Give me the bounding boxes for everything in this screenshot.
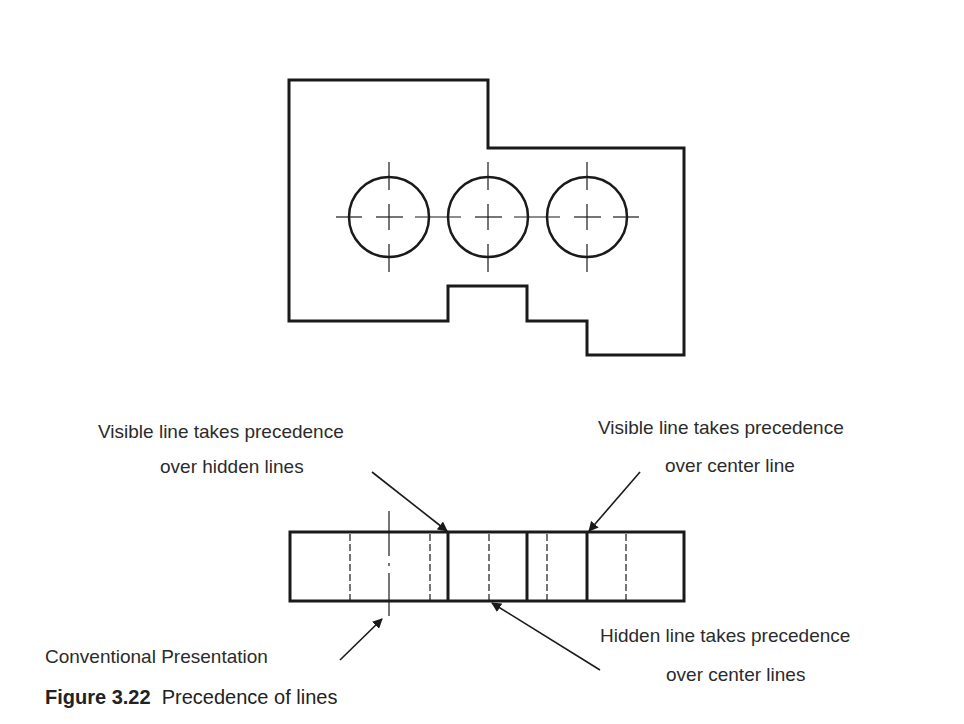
front-view (290, 511, 684, 616)
label-hidden-over-center-line1: Hidden line takes precedence (600, 626, 850, 645)
arrow-visible-over-center (589, 472, 640, 531)
label-hidden-over-center-line2: over center lines (666, 665, 805, 684)
front-view-outline (290, 532, 684, 601)
visible-edges (448, 532, 587, 601)
arrow-conventional (340, 619, 382, 660)
label-conventional-presentation: Conventional Presentation (45, 647, 268, 666)
label-visible-over-center-line1: Visible line takes precedence (598, 418, 844, 437)
label-visible-over-center-line2: over center line (665, 456, 795, 475)
figure-caption: Figure 3.22 Precedence of lines (45, 687, 337, 707)
figure-title: Precedence of lines (162, 686, 338, 708)
leader-arrows (340, 472, 640, 670)
arrow-visible-over-hidden (372, 472, 447, 531)
top-view (289, 80, 684, 355)
label-visible-over-hidden-line1: Visible line takes precedence (98, 422, 344, 441)
technical-drawing (0, 0, 964, 724)
figure-number: Figure 3.22 (45, 686, 151, 708)
hidden-lines (350, 534, 626, 600)
arrow-hidden-over-center (492, 603, 600, 670)
label-visible-over-hidden-line2: over hidden lines (160, 457, 304, 476)
